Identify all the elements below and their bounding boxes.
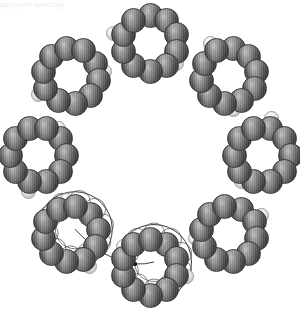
ring-sphere-c2-s9 bbox=[241, 116, 266, 141]
ring-sphere-c1-s9 bbox=[204, 38, 229, 63]
molecule-scene bbox=[0, 0, 300, 313]
figure-canvas: porphyrin nanoring bbox=[0, 0, 300, 313]
ring-sphere-c5-s9 bbox=[63, 194, 88, 219]
ring-sphere-c4-s9 bbox=[138, 227, 163, 252]
ring-sphere-c6-s9 bbox=[34, 116, 59, 141]
ring-sphere-c0-s9 bbox=[121, 8, 146, 33]
